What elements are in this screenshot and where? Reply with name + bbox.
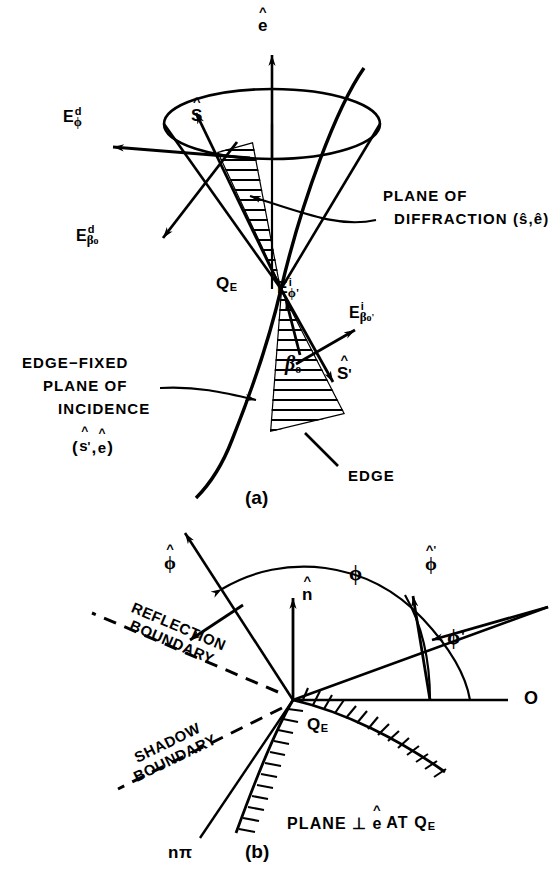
phi-hat-letter: ϕ bbox=[164, 554, 176, 572]
incident-ray-line bbox=[293, 607, 548, 700]
e-hat-inline-b-caret: ^ bbox=[372, 806, 381, 815]
n-pi-label: nπ bbox=[168, 844, 193, 861]
plane-perp-prefix: PLANE ⊥ bbox=[287, 816, 367, 832]
phi-hat-prime-letter: ϕ bbox=[425, 555, 437, 573]
plane-perp-suffix: AT QE bbox=[386, 815, 435, 832]
phi-hat-label: ^ ϕ bbox=[164, 545, 176, 572]
phi-prime-angle-label: ϕ' bbox=[447, 625, 466, 650]
e-hat-inline-b: ^ e bbox=[372, 806, 381, 832]
wedge-face-top bbox=[293, 700, 445, 772]
plane-perp-e-label: PLANE ⊥ ^ e AT QE bbox=[287, 806, 435, 832]
phi-hat-prime-label: ^' ϕ bbox=[425, 546, 437, 573]
o-axis-label: O bbox=[524, 689, 539, 707]
n-hat-label: ^ n bbox=[302, 577, 312, 603]
panel-b-geometry bbox=[0, 0, 555, 883]
QE-subscript-b: E bbox=[321, 722, 328, 734]
figure-canvas: ^ e ^ S Edϕ Edβo QE Eiϕ' Eiβo' βo ^ S' P… bbox=[0, 0, 555, 883]
n-hat-letter: n bbox=[302, 586, 312, 603]
e-hat-inline-b-letter: e bbox=[372, 815, 381, 832]
phi-angle-label: ϕ bbox=[349, 561, 362, 586]
QE-label-panel-b: QE bbox=[307, 716, 328, 734]
QE-letter-b: Q bbox=[307, 715, 321, 734]
panel-b-tag: (b) bbox=[245, 841, 269, 863]
